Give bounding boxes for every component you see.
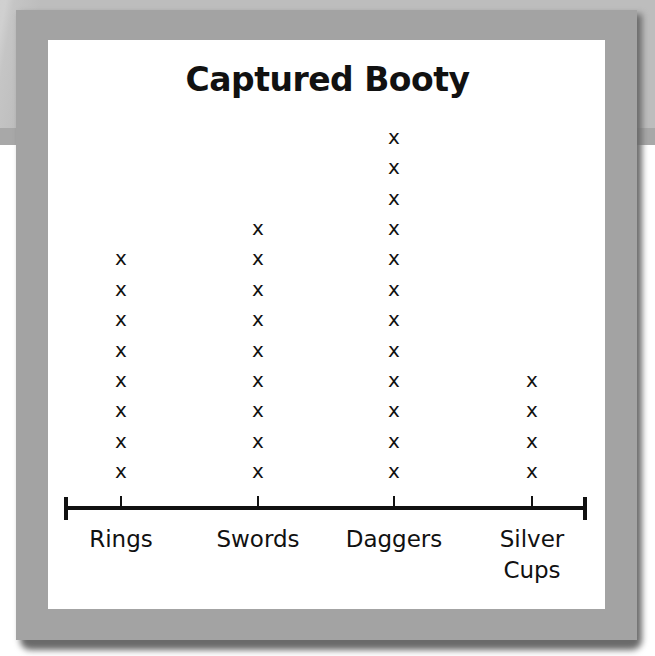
data-point-x-mark: x: [382, 398, 406, 422]
data-point-x-mark: x: [109, 398, 133, 422]
data-point-x-mark: x: [109, 338, 133, 362]
category-label-line: Silver: [462, 524, 602, 555]
data-point-x-mark: x: [520, 429, 544, 453]
category-label-daggers: Daggers: [324, 524, 464, 555]
x-axis-tick-silver-cups: [531, 496, 533, 508]
data-point-x-mark: x: [246, 398, 270, 422]
data-point-x-mark: x: [382, 338, 406, 362]
x-axis-tick-daggers: [393, 496, 395, 508]
data-point-x-mark: x: [382, 186, 406, 210]
x-axis-tick-rings: [120, 496, 122, 508]
data-point-x-mark: x: [382, 429, 406, 453]
data-point-x-mark: x: [246, 429, 270, 453]
category-label-line: Daggers: [324, 524, 464, 555]
data-point-x-mark: x: [382, 277, 406, 301]
data-point-x-mark: x: [382, 368, 406, 392]
category-label-rings: Rings: [51, 524, 191, 555]
data-point-x-mark: x: [382, 459, 406, 483]
category-label-line: Rings: [51, 524, 191, 555]
data-point-x-mark: x: [246, 338, 270, 362]
data-point-x-mark: x: [109, 246, 133, 270]
data-point-x-mark: x: [382, 125, 406, 149]
x-axis-line: [66, 506, 586, 510]
data-point-x-mark: x: [109, 429, 133, 453]
data-point-x-mark: x: [382, 307, 406, 331]
data-point-x-mark: x: [246, 246, 270, 270]
category-label-silver-cups: Silver Cups: [462, 524, 602, 586]
category-label-line: Cups: [462, 555, 602, 586]
x-axis-left-endcap: [64, 497, 68, 520]
data-point-x-mark: x: [520, 368, 544, 392]
x-axis-right-endcap: [583, 497, 587, 520]
chart-title: Captured Booty: [0, 63, 655, 96]
data-point-x-mark: x: [109, 459, 133, 483]
category-label-swords: Swords: [188, 524, 328, 555]
data-point-x-mark: x: [520, 398, 544, 422]
data-point-x-mark: x: [520, 459, 544, 483]
data-point-x-mark: x: [382, 216, 406, 240]
data-point-x-mark: x: [246, 459, 270, 483]
data-point-x-mark: x: [382, 155, 406, 179]
data-point-x-mark: x: [109, 277, 133, 301]
data-point-x-mark: x: [246, 216, 270, 240]
x-axis-tick-swords: [257, 496, 259, 508]
data-point-x-mark: x: [109, 368, 133, 392]
data-point-x-mark: x: [109, 307, 133, 331]
category-label-line: Swords: [188, 524, 328, 555]
data-point-x-mark: x: [382, 246, 406, 270]
data-point-x-mark: x: [246, 307, 270, 331]
data-point-x-mark: x: [246, 368, 270, 392]
data-point-x-mark: x: [246, 277, 270, 301]
